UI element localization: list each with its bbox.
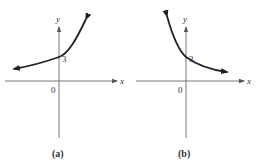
origin-label: 0	[51, 85, 56, 95]
y-axis-label: y	[55, 14, 60, 24]
x-axis-label: x	[119, 76, 124, 86]
caption-a: (a)	[52, 148, 64, 160]
intercept-label: 3	[62, 54, 67, 64]
decay-curve	[167, 16, 227, 72]
origin-label: 0	[178, 85, 183, 95]
growth-curve	[14, 19, 86, 69]
panel-b: y x 0 3 (b)	[136, 14, 251, 160]
intercept-label: 3	[189, 54, 194, 64]
x-axis-label: x	[246, 76, 251, 86]
caption-b: (b)	[178, 148, 190, 160]
figure: y x 0 3 (a) y x 0 3 (b)	[0, 0, 262, 166]
panel-a: y x 0 3 (a)	[5, 14, 124, 160]
y-axis-label: y	[182, 14, 187, 24]
